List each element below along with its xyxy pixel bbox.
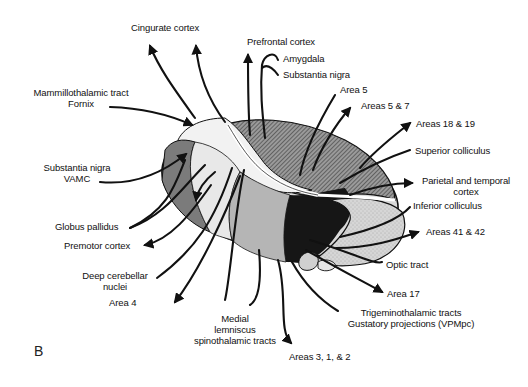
label-area-4: Area 4: [109, 297, 136, 308]
arrow-cingulate-b: [196, 46, 225, 122]
label-areas-18-19: Areas 18 & 19: [416, 118, 475, 129]
label-superior-colliculus: Superior colliculus: [415, 145, 490, 156]
label-deep-cerebellar-line2: nuclei: [70, 281, 160, 292]
label-areas-3-1-2: Areas 3, 1, & 2: [289, 351, 350, 362]
arrow-substantia-nigra-top: [262, 66, 278, 75]
label-optic-tract: Optic tract: [386, 259, 428, 270]
thalamus-diagram: Cingurate cortex Prefrontal cortex Amygd…: [0, 0, 528, 387]
label-parietal-temporal-cortex: Parietal and temporal cortex: [410, 175, 522, 197]
label-medial-line2: lemniscus: [180, 324, 290, 335]
label-medial-line1: Medial: [180, 313, 290, 324]
label-deep-cerebellar-line1: Deep cerebellar: [70, 270, 160, 281]
label-areas-5-7: Areas 5 & 7: [361, 100, 410, 111]
label-globus-pallidus: Globus pallidus: [55, 221, 118, 232]
label-areas-41-42: Areas 41 & 42: [426, 226, 485, 237]
label-trigeminothalamic: Trigeminothalamic tracts: [336, 307, 486, 318]
label-mammillothalamic-fornix: Mammillothalamic tract Fornix: [24, 87, 138, 109]
label-substantia-nigra-top: Substantia nigra: [283, 69, 350, 80]
label-premotor-cortex: Premotor cortex: [64, 240, 130, 251]
arrow-cingulate-a: [150, 46, 195, 118]
panel-letter: B: [34, 343, 43, 359]
label-area-17: Area 17: [387, 288, 420, 299]
label-cingulate-cortex: Cingurate cortex: [131, 22, 199, 33]
label-parietal-temporal-line2: cortex: [410, 186, 522, 197]
label-fornix: Fornix: [24, 98, 138, 109]
label-substantia-nigra-line1: Substantia nigra: [32, 162, 122, 173]
arrow-fornix: [110, 107, 192, 125]
label-medial-line3: spinothalamic tracts: [180, 335, 290, 346]
label-gustatory: Gustatory projections (VPMpc): [336, 318, 486, 329]
label-substantia-nigra-line2: VAMC: [32, 173, 122, 184]
arrow-areas-18-19: [360, 123, 410, 168]
arrow-prefrontal-a: [248, 55, 250, 135]
label-trigeminothalamic-gustatory: Trigeminothalamic tracts Gustatory proje…: [336, 307, 486, 329]
label-area-5: Area 5: [340, 84, 367, 95]
label-substantia-nigra-vamc: Substantia nigra VAMC: [32, 162, 122, 184]
label-deep-cerebellar-nuclei: Deep cerebellar nuclei: [70, 270, 160, 292]
arrow-medial-lemniscus: [250, 250, 260, 305]
label-amygdala: Amygdala: [283, 53, 324, 64]
label-medial-lemniscus-spinothalamic: Medial lemniscus spinothalamic tracts: [180, 313, 290, 346]
label-parietal-temporal-line1: Parietal and temporal: [410, 175, 522, 186]
label-inferior-colliculus: Inferior colliculus: [413, 200, 482, 211]
label-prefrontal-cortex: Prefrontal cortex: [247, 36, 315, 47]
label-mammillothalamic: Mammillothalamic tract: [24, 87, 138, 98]
